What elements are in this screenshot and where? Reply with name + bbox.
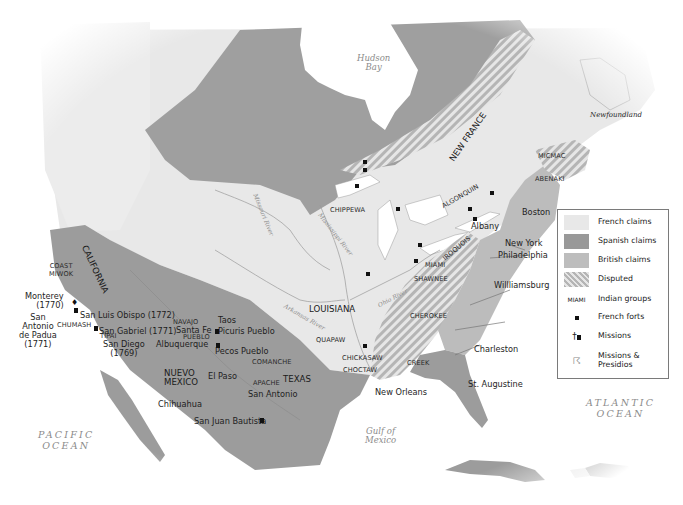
newfoundland-label: Newfoundland [590, 112, 642, 119]
city-san-luis-obispo: San Luis Obispo (1772) [80, 311, 175, 319]
pacific-ocean-label: PACIFIC OCEAN [38, 430, 94, 452]
mission-icon [260, 418, 264, 423]
city-san-antonio-de-padua: San Antonio de Padua (1771) [19, 313, 57, 349]
pacific-label-line2: OCEAN [38, 441, 94, 452]
tribe-apache: APACHE [253, 380, 280, 387]
fort-marker [418, 243, 422, 247]
tribe-comanche: COMANCHE [252, 359, 291, 366]
atlantic-ocean-label: ATLANTIC OCEAN [586, 398, 655, 420]
legend-spanish-claims: Spanish claims [558, 232, 668, 250]
legend-french-forts: French forts [558, 308, 668, 326]
city-new-york: New York [505, 239, 543, 247]
padua-line4: (1771) [19, 340, 57, 349]
city-st-augustine: St. Augustine [468, 380, 523, 388]
city-philadelphia: Philadelphia [498, 251, 548, 259]
indian-group-symbol: MIAMI [564, 296, 589, 303]
tribe-shawnee: SHAWNEE [414, 276, 448, 283]
city-charleston: Charleston [474, 345, 518, 353]
tribe-creek: CREEK [407, 360, 429, 367]
fort-marker [414, 259, 418, 263]
mission-icon [215, 329, 219, 334]
region-louisiana: LOUISIANA [309, 305, 355, 314]
region-nuevo-mexico-line2: MEXICO [164, 378, 198, 387]
tribe-miami: MIAMI [425, 262, 445, 269]
legend-missions-presidios: ☈ Missions & Presidios [558, 347, 668, 375]
mission-icon [74, 308, 78, 313]
legend-label: Missions [598, 332, 631, 341]
tribe-cherokee: CHEROKEE [410, 313, 447, 320]
fort-marker [363, 168, 367, 172]
map-legend: French claims Spanish claims British cla… [557, 209, 669, 379]
tribe-chumash: CHUMASH [57, 322, 91, 329]
fort-marker [396, 207, 400, 211]
city-san-diego: San Diego (1769) [103, 340, 145, 358]
mission-icon: ♦ [71, 298, 78, 307]
city-pecos-pueblo: Pecos Pueblo [215, 347, 269, 355]
legend-label: Indian groups [598, 295, 651, 304]
city-picuris-pueblo: Picuris Pueblo [218, 327, 275, 335]
tribe-coast-miwok-line2: MIWOK [49, 271, 73, 279]
legend-disputed: Disputed [558, 270, 668, 288]
disputed-swatch [564, 272, 589, 287]
gulf-label-line2: Mexico [365, 436, 396, 445]
city-monterey: Monterey (1770) [25, 292, 64, 310]
legend-french-claims: French claims [558, 213, 668, 231]
city-albany: Albany [471, 222, 499, 230]
region-nuevo-mexico: NUEVO MEXICO [164, 369, 198, 388]
hudson-bay-label-line2: Bay [357, 63, 390, 72]
tribe-coast-miwok: COAST MIWOK [49, 263, 73, 278]
city-monterey-line2: (1770) [25, 301, 64, 310]
fort-marker [363, 344, 367, 348]
city-williamsburg: Willliamsburg [494, 281, 549, 289]
city-santa-fe: Santa Fe [176, 326, 212, 334]
tribe-abenaki: ABENAKI [535, 176, 565, 183]
fort-marker [366, 272, 370, 276]
tribe-chickasaw: CHICKASAW [342, 355, 383, 362]
fort-icon [564, 314, 589, 321]
spanish-claims-swatch [564, 234, 589, 249]
legend-label: Spanish claims [598, 237, 656, 246]
city-san-antonio: San Antonio [248, 390, 298, 398]
region-texas: TEXAS [283, 375, 311, 384]
legend-british-claims: British claims [558, 251, 668, 269]
legend-indian-groups: MIAMI Indian groups [558, 290, 668, 308]
gulf-of-mexico-label: Gulf of Mexico [365, 427, 396, 444]
mission-icon: † [564, 331, 589, 341]
city-san-diego-line2: (1769) [103, 349, 145, 358]
colonial-claims-map: Hudson Bay Gulf of Mexico PACIFIC OCEAN … [0, 0, 683, 505]
fort-marker [468, 207, 472, 211]
legend-label: Missions & Presidios [598, 352, 640, 370]
fort-marker [490, 191, 494, 195]
legend-label-line2: Presidios [598, 361, 640, 370]
city-chihuahua: Chihuahua [158, 400, 202, 408]
legend-missions: † Missions [558, 327, 668, 345]
city-san-gabriel: San Gabriel (1771) [99, 327, 176, 335]
city-el-paso: El Paso [208, 372, 237, 380]
legend-label: French claims [598, 218, 651, 227]
city-albuquerque: Albuquerque [156, 340, 208, 348]
legend-label: British claims [598, 256, 650, 265]
fort-marker [355, 184, 359, 188]
city-new-orleans: New Orleans [375, 388, 427, 396]
french-claims-swatch [564, 215, 589, 230]
british-claims-swatch [564, 253, 589, 268]
tribe-quapaw: QUAPAW [316, 337, 345, 344]
mission-presidio-icon: ☈ [564, 356, 589, 366]
tribe-chippewa: CHIPPEWA [330, 207, 365, 214]
tribe-choctaw: CHOCTAW [343, 367, 377, 374]
atlantic-label-line2: OCEAN [586, 409, 655, 420]
tribe-micmac: MICMAC [538, 153, 566, 160]
mission-icon [94, 326, 98, 331]
city-boston: Boston [522, 208, 550, 216]
mission-icon [216, 343, 220, 348]
hudson-bay-label: Hudson Bay [357, 54, 390, 71]
legend-label: Disputed [598, 275, 633, 284]
fort-marker [363, 160, 367, 164]
city-san-juan-bautista: San Juan Bautista [194, 417, 266, 425]
city-taos: Taos [218, 316, 236, 324]
legend-label: French forts [598, 313, 644, 322]
